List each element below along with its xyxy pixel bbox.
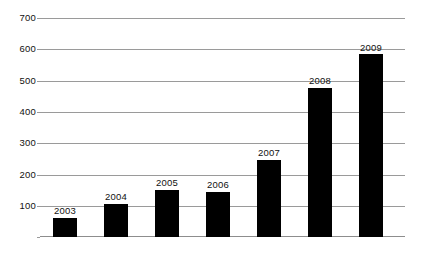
bar-label-2007: 2007 (249, 148, 289, 158)
bar-2008 (308, 88, 332, 237)
y-tick-label-300: 300 (2, 138, 36, 148)
gridline-500 (40, 81, 405, 82)
y-tick-label-600: 600 (2, 44, 36, 54)
y-axis: 700 600 500 400 300 200 100 (0, 18, 36, 237)
y-tick-label-400: 400 (2, 107, 36, 117)
bar-chart: 700 600 500 400 300 200 100 2003 2004 (0, 0, 421, 253)
plot-area: 2003 2004 2005 2006 2007 2008 2009 (40, 18, 405, 237)
y-tick-label-200: 200 (2, 170, 36, 180)
bar-2003 (53, 218, 77, 237)
gridline-700 (40, 18, 405, 19)
bar-label-2008: 2008 (300, 76, 340, 86)
gridline-400 (40, 112, 405, 113)
bar-label-2009: 2009 (351, 43, 391, 53)
y-tick-label-500: 500 (2, 76, 36, 86)
bar-label-2006: 2006 (198, 180, 238, 190)
bar-label-2005: 2005 (147, 178, 187, 188)
y-tick-label-100: 100 (2, 201, 36, 211)
bar-label-2004: 2004 (96, 192, 136, 202)
bar-2009 (359, 54, 383, 237)
axis-tick-0 (37, 237, 40, 238)
gridline-300 (40, 143, 405, 144)
bar-2006 (206, 192, 230, 237)
gridline-200 (40, 175, 405, 176)
bar-2004 (104, 204, 128, 237)
bar-2007 (257, 160, 281, 237)
y-tick-label-700: 700 (2, 13, 36, 23)
bar-2005 (155, 190, 179, 237)
bar-label-2003: 2003 (45, 206, 85, 216)
